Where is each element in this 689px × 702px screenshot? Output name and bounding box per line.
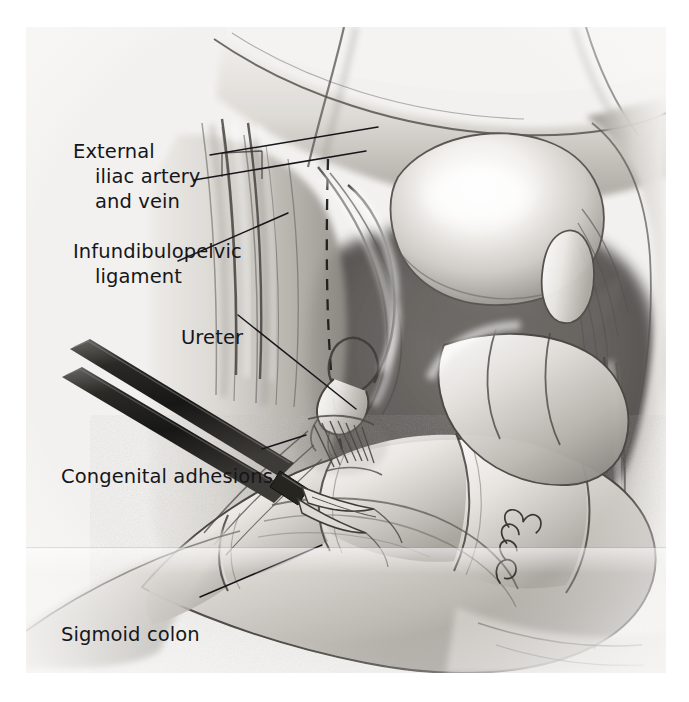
label-congenital-adhesions: Congenital adhesions [61,464,273,489]
label-line-1: Sigmoid colon [61,623,200,646]
label-line-1: Ureter [181,326,243,349]
anatomical-drawing [26,27,666,673]
label-infundibulopelvic-ligament: Infundibulopelvicligament [73,239,242,289]
figure-root: Externaliliac arteryand vein Infundibulo… [0,0,689,702]
label-line-3: and vein [73,189,201,214]
label-line-2: iliac artery [73,164,201,189]
label-line-1: Congenital adhesions [61,465,273,488]
label-line-1: External [73,140,155,163]
label-line-2: ligament [73,264,242,289]
illustration-plate: Externaliliac arteryand vein Infundibulo… [26,27,666,673]
label-external-iliac-artery-and-vein: Externaliliac arteryand vein [73,139,201,214]
label-line-1: Infundibulopelvic [73,240,242,263]
label-sigmoid-colon: Sigmoid colon [61,622,200,647]
label-ureter: Ureter [181,325,243,350]
scan-seam-highlight [26,548,666,574]
